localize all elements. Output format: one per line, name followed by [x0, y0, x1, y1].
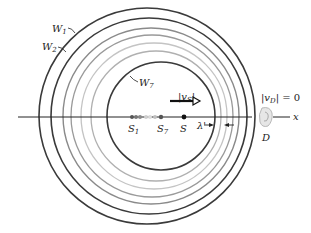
- label-s1: S1: [128, 123, 139, 136]
- leader-w7: [130, 76, 138, 82]
- label-lambda: λ': [196, 120, 206, 131]
- source-point-s2: [134, 115, 138, 119]
- source-point-s4: [144, 115, 148, 119]
- label-s: S: [180, 123, 187, 134]
- source-point-s6: [153, 115, 157, 119]
- x-axis-label: x: [293, 111, 299, 122]
- doppler-diagram: x S1 S7 S W1 W2 W7 |vS| λ' |vD| = 0 D: [0, 0, 311, 233]
- label-w7: W7: [139, 77, 154, 90]
- source-point-s: [182, 115, 187, 120]
- label-w1: W1: [52, 23, 67, 36]
- label-detector: D: [261, 132, 270, 143]
- label-detector-velocity: |vD| = 0: [261, 92, 300, 105]
- detector-ear-icon: [259, 108, 272, 127]
- leader-w1: [68, 28, 75, 33]
- source-point-s3: [138, 115, 142, 119]
- source-point-s1: [130, 115, 134, 119]
- label-w2: W2: [42, 41, 57, 54]
- source-velocity-arrow-head: [193, 97, 200, 105]
- wavefront-w4: [71, 35, 233, 197]
- label-s7: S7: [157, 123, 169, 136]
- source-point-s5: [148, 115, 152, 119]
- source-point-s7: [159, 115, 163, 119]
